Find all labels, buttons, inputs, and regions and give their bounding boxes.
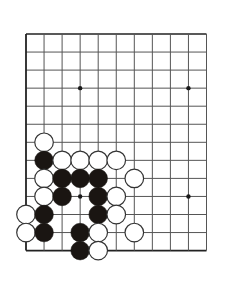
white-stone[interactable]: [89, 151, 108, 170]
white-stone[interactable]: [17, 223, 36, 242]
white-stone[interactable]: [17, 205, 36, 224]
black-stone[interactable]: [35, 223, 54, 242]
white-stone[interactable]: [125, 169, 144, 188]
star-point: [186, 194, 190, 198]
black-stone[interactable]: [53, 169, 72, 188]
black-stone[interactable]: [89, 205, 108, 224]
white-stone[interactable]: [125, 223, 144, 242]
star-point: [78, 194, 82, 198]
black-stone[interactable]: [71, 169, 90, 188]
go-board[interactable]: [0, 0, 236, 262]
white-stone[interactable]: [107, 151, 126, 170]
white-stone[interactable]: [71, 151, 90, 170]
black-stone[interactable]: [53, 187, 72, 206]
white-stone[interactable]: [107, 187, 126, 206]
black-stone[interactable]: [89, 187, 108, 206]
white-stone[interactable]: [53, 151, 72, 170]
white-stone[interactable]: [35, 133, 54, 152]
black-stone[interactable]: [89, 169, 108, 188]
go-problem-figure: 问題 113: [0, 0, 236, 302]
black-stone[interactable]: [35, 151, 54, 170]
star-point: [186, 86, 190, 90]
black-stone[interactable]: [71, 223, 90, 242]
white-stone[interactable]: [107, 205, 126, 224]
figure-caption-row: 问題 113: [0, 255, 236, 302]
go-board-canvas[interactable]: [0, 0, 236, 262]
black-stone[interactable]: [35, 205, 54, 224]
white-stone[interactable]: [35, 187, 54, 206]
white-stone[interactable]: [35, 169, 54, 188]
white-stone[interactable]: [89, 223, 108, 242]
star-point: [78, 86, 82, 90]
